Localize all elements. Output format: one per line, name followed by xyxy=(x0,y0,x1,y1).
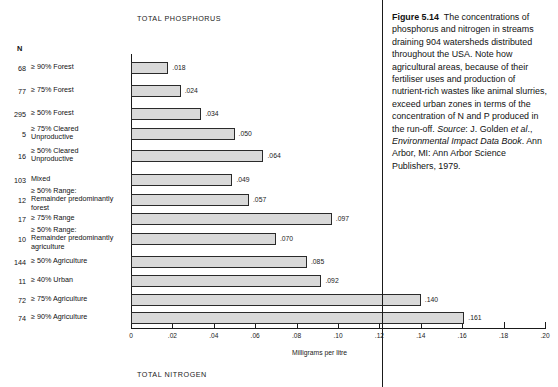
row-label: Mixed xyxy=(31,175,131,184)
source-title: Environmental Impact Data Book xyxy=(392,136,522,146)
x-axis-tick-label: .10 xyxy=(333,332,342,339)
bar xyxy=(131,128,235,140)
bar-value-label: .070 xyxy=(280,235,293,242)
row-label-line: forest xyxy=(31,204,131,213)
x-axis-tick-label: .16 xyxy=(458,332,467,339)
x-axis-tick-label: .20 xyxy=(540,332,549,339)
chart-title-top: TOTAL PHOSPHORUS xyxy=(137,14,221,23)
figure-5-14: TOTAL PHOSPHORUS N 0.02.04.06.08.10.12.1… xyxy=(0,0,558,387)
source-label: Source xyxy=(437,124,465,134)
row-label-line: ≥ 75% Range xyxy=(31,214,131,223)
figure-caption: Figure 5.14 The concentrations of phosph… xyxy=(392,11,548,172)
x-axis-tick-label: .04 xyxy=(209,332,218,339)
bar-value-label: .018 xyxy=(172,64,185,71)
row-label-line: ≥ 50% Forest xyxy=(31,109,131,118)
row-n-value: 295 xyxy=(0,110,26,119)
bar-value-label: .024 xyxy=(185,87,198,94)
bar xyxy=(131,256,307,268)
bar-value-label: .064 xyxy=(267,152,280,159)
bar-value-label: .049 xyxy=(236,176,249,183)
row-n-value: 77 xyxy=(0,87,26,96)
row-label: ≥ 75% Agriculture xyxy=(31,295,131,304)
bar-value-label: .057 xyxy=(253,196,266,203)
bar xyxy=(131,62,168,74)
row-label: ≥ 50% Range:Remainder predominantlyfores… xyxy=(31,187,131,213)
row-label-line: ≥ 75% Forest xyxy=(31,86,131,95)
bar-value-label: .092 xyxy=(325,277,338,284)
source-separator: : J. Golden xyxy=(465,124,510,134)
row-n-value: 5 xyxy=(0,130,26,139)
bar-value-label: .140 xyxy=(425,296,438,303)
bar-value-label: .085 xyxy=(311,258,324,265)
x-axis-tick-label: .18 xyxy=(499,332,508,339)
x-axis-label: Milligrams per litre xyxy=(292,349,347,356)
row-n-value: 103 xyxy=(0,176,26,185)
row-label-line: Unproductive xyxy=(31,155,131,164)
row-label: ≥ 50% Forest xyxy=(31,109,131,118)
x-axis-tick-label: .06 xyxy=(251,332,260,339)
x-axis-tick xyxy=(545,322,546,329)
bar xyxy=(131,150,263,162)
bar xyxy=(131,233,276,245)
bar xyxy=(131,275,321,287)
row-n-value: 17 xyxy=(0,215,26,224)
row-label: ≥ 50% Agriculture xyxy=(31,257,131,266)
row-label-line: ≥ 75% Agriculture xyxy=(31,295,131,304)
row-label: ≥ 40% Urban xyxy=(31,276,131,285)
bar-value-label: .034 xyxy=(205,110,218,117)
row-n-value: 16 xyxy=(0,152,26,161)
chart-title-bottom: TOTAL NITROGEN xyxy=(137,370,207,379)
bar xyxy=(131,174,232,186)
bar-value-label: .097 xyxy=(336,215,349,222)
row-label: ≥ 90% Forest xyxy=(31,63,131,72)
bar-value-label: .050 xyxy=(239,130,252,137)
x-axis-tick-label: .14 xyxy=(416,332,425,339)
bar xyxy=(131,194,249,206)
row-n-value: 68 xyxy=(0,64,26,73)
bar xyxy=(131,213,332,225)
row-label: ≥ 90% Agriculture xyxy=(31,313,131,322)
figure-caption-body: The concentrations of phosphorus and nit… xyxy=(392,12,547,134)
x-axis-tick-label: 0 xyxy=(129,332,133,339)
bar xyxy=(131,85,181,97)
bar xyxy=(131,312,464,324)
row-label: ≥ 75% Range xyxy=(31,214,131,223)
row-label: ≥ 75% ClearedUnproductive xyxy=(31,125,131,142)
figure-caption-label: Figure 5.14 xyxy=(392,12,439,22)
bar-value-label: .161 xyxy=(468,314,481,321)
row-label-line: ≥ 90% Forest xyxy=(31,63,131,72)
source-etal: et al xyxy=(511,124,528,134)
bar xyxy=(131,294,421,306)
row-label-line: agriculture xyxy=(31,243,131,252)
x-axis-tick-label: .08 xyxy=(292,332,301,339)
bar xyxy=(131,108,201,120)
row-label: ≥ 75% Forest xyxy=(31,86,131,95)
x-axis-tick-label: .02 xyxy=(168,332,177,339)
x-axis-tick xyxy=(504,322,505,329)
row-label-line: ≥ 50% Agriculture xyxy=(31,257,131,266)
row-n-value: 74 xyxy=(0,314,26,323)
row-label-line: ≥ 40% Urban xyxy=(31,276,131,285)
source-after-etal: ., xyxy=(528,124,533,134)
n-column-header: N xyxy=(17,44,22,53)
row-n-value: 11 xyxy=(0,277,26,286)
row-label-line: Unproductive xyxy=(31,133,131,142)
row-n-value: 144 xyxy=(0,258,26,267)
row-label-line: Mixed xyxy=(31,175,131,184)
row-label-line: ≥ 90% Agriculture xyxy=(31,313,131,322)
row-label: ≥ 50% Range:Remainder predominantlyagric… xyxy=(31,226,131,252)
row-n-value: 12 xyxy=(0,196,26,205)
row-n-value: 10 xyxy=(0,235,26,244)
row-n-value: 72 xyxy=(0,296,26,305)
row-label: ≥ 50% ClearedUnproductive xyxy=(31,147,131,164)
column-divider xyxy=(382,0,383,387)
